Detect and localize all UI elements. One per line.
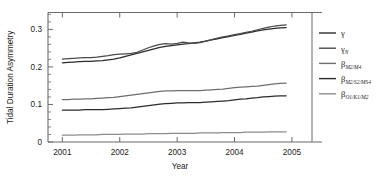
legend-subscript-2: M2/M4 xyxy=(344,64,361,70)
legend-label-4: βO1/K1/M2 xyxy=(341,89,369,100)
legend-label-3: βM2/S2/MS4 xyxy=(341,74,371,85)
legend-item-0[interactable]: γ xyxy=(319,28,345,38)
x-tick-label: 2005 xyxy=(283,148,302,157)
legend-subscript-4: O1/K1/M2 xyxy=(345,94,368,100)
legend-item-3[interactable]: βM2/S2/MS4 xyxy=(319,74,371,85)
legend-item-1[interactable]: γN xyxy=(319,44,349,55)
y-tick-label: 0.1 xyxy=(31,100,43,109)
y-tick-label: 0.3 xyxy=(31,25,43,34)
legend-item-2[interactable]: βM2/M4 xyxy=(319,59,362,70)
y-tick-label: 0.2 xyxy=(31,63,43,72)
tidal-duration-asymmetry-chart: 00.10.20.320012002200320042005YearTidal … xyxy=(0,0,390,178)
x-tick-label: 2001 xyxy=(53,148,72,157)
legend-subscript-3: M2/S2/MS4 xyxy=(344,79,371,85)
series-line-beta_M2_M4 xyxy=(62,83,286,100)
x-tick-label: 2004 xyxy=(225,148,244,157)
x-tick-label: 2002 xyxy=(111,148,130,157)
legend-label-2: βM2/M4 xyxy=(341,59,362,70)
x-tick-label: 2003 xyxy=(168,148,187,157)
legend-item-4[interactable]: βO1/K1/M2 xyxy=(319,89,369,100)
legend-subscript-1: N xyxy=(344,49,349,55)
y-tick-label: 0 xyxy=(37,138,42,147)
figure-container: 00.10.20.320012002200320042005YearTidal … xyxy=(0,0,390,178)
legend-label-1: γN xyxy=(340,44,349,55)
legend-label-0: γ xyxy=(340,28,345,38)
y-axis-title: Tidal Duration Asymmetry xyxy=(6,30,15,124)
x-axis-title: Year xyxy=(172,162,189,171)
series-line-gamma_N xyxy=(62,25,286,59)
series-line-beta_O1_K1_M2 xyxy=(62,132,286,135)
